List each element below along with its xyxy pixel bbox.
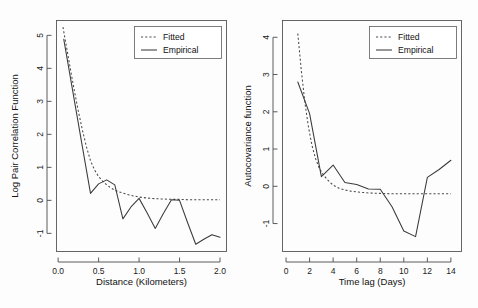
y-tick-label: 4: [35, 66, 45, 71]
x-tick-label: 2: [307, 266, 312, 276]
series-empirical-line: [64, 39, 220, 244]
x-tick-label: 1.5: [174, 266, 186, 276]
x-tick-label: 8: [378, 266, 383, 276]
right-data-area: [298, 34, 451, 237]
left-x-axis: 0.00.51.01.52.0: [52, 258, 226, 277]
x-tick-label: 6: [354, 266, 359, 276]
right-y-axis-title: Autocovariance function: [242, 85, 253, 186]
y-tick-label: 0: [35, 198, 45, 203]
x-tick-label: 4: [331, 266, 336, 276]
y-tick-label: 4: [261, 35, 271, 40]
right-y-axis: -101234: [261, 35, 277, 228]
figure-container: -1012345 0.00.51.01.52.0 Fitted Empirica…: [0, 0, 478, 308]
x-tick-label: 2.0: [214, 266, 226, 276]
y-tick-label: -1: [35, 229, 45, 237]
chart-panel-right: -101234 02468101214 Fitted Empirical Tim…: [239, 0, 478, 308]
x-tick-label: 0.0: [52, 266, 64, 276]
left-data-area: [63, 27, 220, 244]
x-tick-label: 10: [399, 266, 409, 276]
chart-panel-left: -1012345 0.00.51.01.52.0 Fitted Empirica…: [0, 0, 239, 308]
left-y-axis: -1012345: [35, 33, 51, 237]
right-x-axis: 02468101214: [284, 258, 456, 277]
left-legend: Fitted Empirical: [135, 27, 222, 59]
y-tick-label: 0: [261, 184, 271, 189]
y-tick-label: 3: [261, 72, 271, 77]
x-tick-label: 0: [284, 266, 289, 276]
right-x-axis-title: Time lag (Days): [339, 276, 406, 287]
left-plot-svg: -1012345 0.00.51.01.52.0 Fitted Empirica…: [0, 0, 239, 308]
y-tick-label: 2: [35, 132, 45, 137]
legend-label-empirical: Empirical: [163, 45, 198, 55]
legend-label-fitted: Fitted: [163, 32, 185, 42]
x-tick-label: 0.5: [93, 266, 105, 276]
x-tick-label: 12: [423, 266, 433, 276]
legend-label-empirical: Empirical: [398, 45, 433, 55]
y-tick-label: 3: [35, 99, 45, 104]
y-tick-label: 2: [261, 109, 271, 114]
legend-label-fitted: Fitted: [398, 32, 420, 42]
x-tick-label: 1.0: [133, 266, 145, 276]
left-x-axis-title: Distance (Kilometers): [96, 276, 187, 287]
y-tick-label: 5: [35, 33, 45, 38]
y-tick-label: 1: [261, 146, 271, 151]
x-tick-label: 14: [446, 266, 456, 276]
right-legend: Fitted Empirical: [370, 27, 457, 59]
y-tick-label: 1: [35, 165, 45, 170]
series-empirical-line: [298, 82, 451, 237]
left-y-axis-title: Log Pair Correlation Function: [9, 74, 20, 198]
y-tick-label: -1: [261, 220, 271, 228]
right-plot-svg: -101234 02468101214 Fitted Empirical Tim…: [239, 0, 478, 308]
